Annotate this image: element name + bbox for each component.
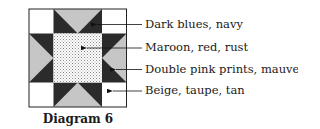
legend-label-dark: Dark blues, navy xyxy=(145,19,243,31)
legend-label-beige: Beige, taupe, tan xyxy=(145,85,245,97)
corner-square-top-left xyxy=(29,9,54,34)
corner-square-bottom-left xyxy=(29,83,54,108)
quilt-block xyxy=(29,9,127,107)
corner-square-bottom-right xyxy=(102,83,127,108)
legend-label-maroon: Maroon, red, rust xyxy=(145,42,248,54)
corner-square-top-right xyxy=(102,9,127,34)
center-square xyxy=(54,34,103,83)
legend-label-pink: Double pink prints, mauve xyxy=(145,64,298,76)
diagram-caption: Diagram 6 xyxy=(28,112,128,126)
